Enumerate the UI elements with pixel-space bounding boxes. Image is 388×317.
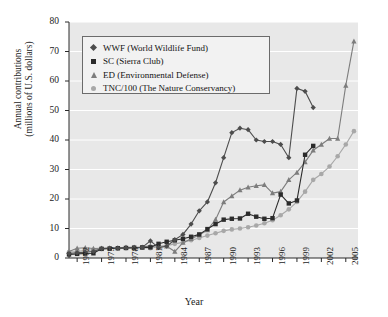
y-tick-label: 10 [37,223,59,233]
x-tick-label: 1999 [301,247,311,265]
data-point [238,216,242,220]
data-point [303,189,308,194]
data-point [230,217,234,221]
y-axis-title: Annual contributions(millions of U.S. do… [13,0,35,189]
chart-legend: WWF (World Wildlife Fund) SC (Sierra Clu… [82,36,270,94]
data-point [319,172,324,177]
data-point [148,245,152,249]
chart-figure: Annual contributions(millions of U.S. do… [0,0,388,317]
data-point [335,154,340,159]
data-point [262,217,266,221]
data-point [295,198,299,202]
square-marker-icon [88,55,100,67]
legend-label-wwf: WWF (World Wildlife Fund) [103,43,208,53]
data-point [254,223,259,228]
y-tick-label: 50 [37,105,59,115]
data-point [270,216,274,220]
legend-item-tnc[interactable]: TNC/100 (The Nature Conservancy) [88,82,264,95]
x-tick-label: 1975 [106,247,116,265]
x-tick-label: 1993 [252,247,262,265]
x-axis-title: Year [0,296,388,307]
data-point [327,164,332,169]
data-point [262,221,267,226]
data-point [221,229,226,234]
data-point [213,222,217,226]
data-point [246,225,251,230]
data-point [254,215,258,219]
data-point [352,129,357,134]
legend-label-tnc: TNC/100 (The Nature Conservancy) [103,83,235,93]
x-tick-label: 1984 [179,247,189,265]
x-tick-label: 2005 [350,247,360,265]
data-point [311,178,316,183]
x-tick-label: 1990 [228,247,238,265]
data-point [238,226,243,231]
triangle-marker-icon [88,69,100,81]
y-axis-title-line2: (millions of U.S. dollars) [24,41,34,136]
data-point [181,237,185,241]
x-tick-label: 1981 [154,247,164,265]
legend-label-sc: SC (Sierra Club) [103,56,164,66]
data-point [311,144,315,148]
data-point [230,227,235,232]
legend-item-ed[interactable]: ED (Environmental Defense) [88,68,264,81]
x-tick-label: 1972 [81,247,91,265]
y-tick-label: 20 [37,193,59,203]
data-point [287,207,292,212]
legend-item-sc[interactable]: SC (Sierra Club) [88,55,264,68]
data-point [213,231,218,236]
x-tick-label: 2002 [325,247,335,265]
circle-marker-icon [88,82,100,94]
data-point [189,235,193,239]
legend-item-wwf[interactable]: WWF (World Wildlife Fund) [88,41,264,54]
x-tick-label: 1987 [203,247,213,265]
y-tick-label: 0 [37,252,59,262]
data-point [197,232,201,236]
y-tick-label: 80 [37,16,59,26]
x-tick-label: 1996 [277,247,287,265]
data-point [343,142,348,147]
y-tick-label: 30 [37,164,59,174]
data-point [278,213,283,218]
data-point [246,212,250,216]
data-point [278,192,282,196]
data-point [303,153,307,157]
x-tick-label: 1978 [130,247,140,265]
y-axis-title-line1: Annual contributions [13,49,23,129]
y-tick-label: 70 [37,46,59,56]
diamond-marker-icon [88,42,100,54]
data-point [205,233,210,238]
y-tick-label: 40 [37,134,59,144]
data-point [287,201,291,205]
legend-label-ed: ED (Environmental Defense) [103,70,208,80]
y-tick-label: 60 [37,75,59,85]
data-point [221,217,225,221]
data-point [164,240,168,244]
data-point [205,227,209,231]
